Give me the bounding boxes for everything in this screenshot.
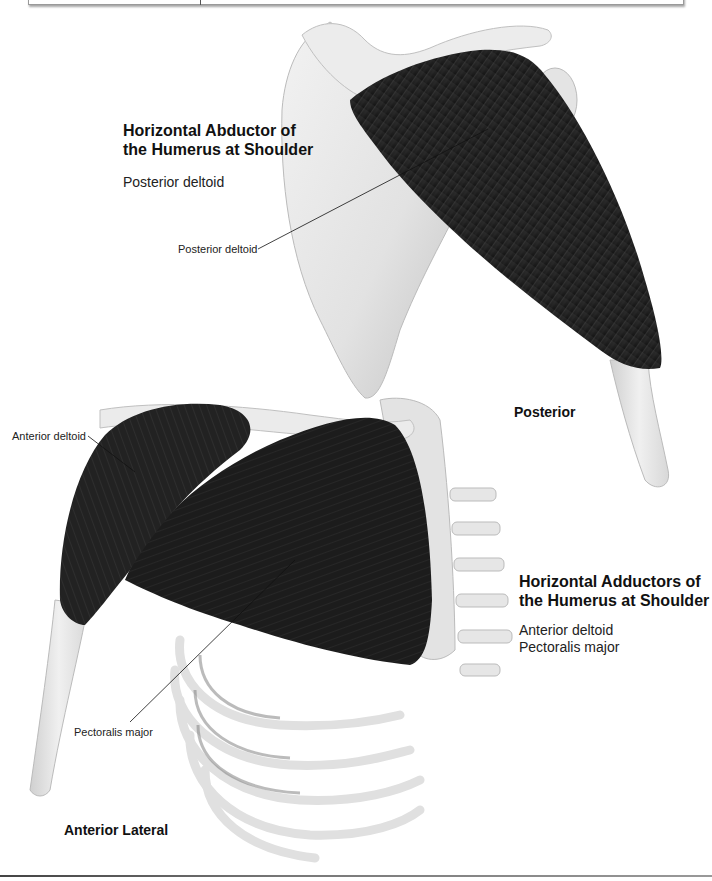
anterior-muscle-list: Anterior deltoid Pectoralis major xyxy=(519,622,619,656)
anterior-lateral-view xyxy=(30,398,512,858)
humerus-anterior xyxy=(30,600,88,796)
callout-pectoralis-major: Pectoralis major xyxy=(74,726,153,739)
rib-stubs xyxy=(450,488,512,676)
rib-cage xyxy=(175,640,420,858)
anterior-heading: Horizontal Adductors of the Humerus at S… xyxy=(519,572,709,610)
callout-posterior-deltoid: Posterior deltoid xyxy=(178,243,258,256)
posterior-heading-line1: Horizontal Abductor of xyxy=(123,121,313,140)
anatomy-illustration xyxy=(0,0,712,881)
humerus-shaft xyxy=(610,360,669,487)
posterior-muscle-item: Posterior deltoid xyxy=(123,174,224,191)
view-title-anterior-lateral: Anterior Lateral xyxy=(64,822,168,838)
posterior-heading: Horizontal Abductor of the Humerus at Sh… xyxy=(123,121,313,159)
posterior-heading-line2: the Humerus at Shoulder xyxy=(123,140,313,159)
anterior-muscle-item: Anterior deltoid xyxy=(519,622,619,639)
posterior-muscle-list: Posterior deltoid xyxy=(123,174,224,191)
anterior-heading-line2: the Humerus at Shoulder xyxy=(519,591,709,610)
anterior-heading-line1: Horizontal Adductors of xyxy=(519,572,709,591)
posterior-view xyxy=(282,22,669,487)
anterior-muscle-item: Pectoralis major xyxy=(519,639,619,656)
view-title-posterior: Posterior xyxy=(514,404,575,420)
callout-anterior-deltoid: Anterior deltoid xyxy=(12,430,86,443)
bottom-divider xyxy=(0,875,712,877)
